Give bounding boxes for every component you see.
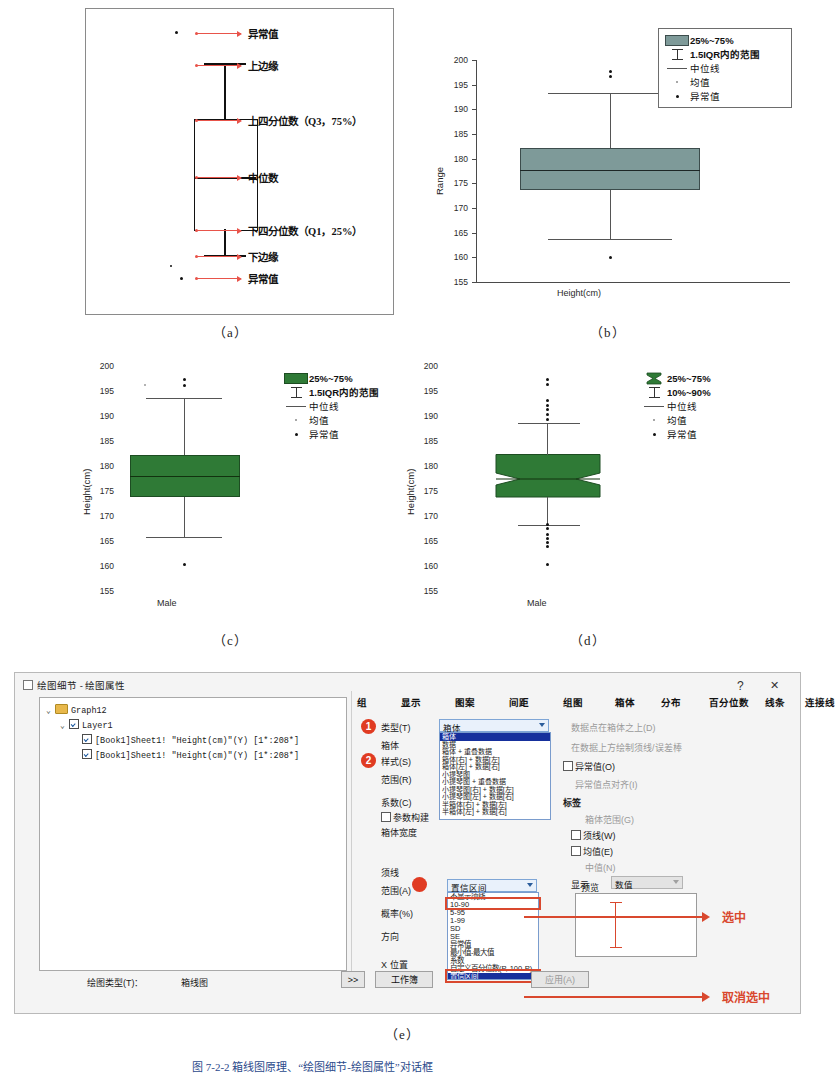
close-button[interactable]: ✕	[770, 679, 779, 692]
tab-group[interactable]: 组	[357, 695, 367, 709]
tree-node-root[interactable]: ⌄Graph12	[46, 704, 107, 716]
tab-connect-line[interactable]: 连接线	[805, 695, 835, 709]
mean-label-checkbox[interactable]	[571, 846, 581, 856]
outlier-point-d	[546, 523, 549, 526]
window-icon	[23, 680, 33, 690]
workbook-button[interactable]: 工作簿	[375, 971, 433, 988]
whisker-option[interactable]: 1-99	[448, 917, 538, 925]
annotation-label-lower-whisker: 下边缘	[248, 249, 278, 264]
outlier-point-b	[609, 256, 612, 259]
chevron-down-icon[interactable]: ⌄	[46, 706, 55, 715]
box-median-line-b	[520, 170, 700, 171]
whisker-range-combobox[interactable]: 置信区间	[447, 879, 537, 892]
legend-item: 10%~90%	[641, 385, 771, 399]
type-option[interactable]: 小提琴图	[440, 771, 550, 779]
step-badge-2: 2	[361, 753, 376, 768]
tab-distribution[interactable]: 分布	[661, 695, 681, 709]
dialog-title-text: 绘图细节 - 绘图属性	[37, 680, 125, 691]
type-combobox[interactable]: 箱体	[439, 719, 549, 732]
type-option[interactable]: 数据	[440, 741, 550, 749]
whisker-option[interactable]: SD	[448, 925, 538, 933]
whisker-label-checkbox[interactable]	[571, 830, 581, 840]
type-option[interactable]: 小提琴图[左] + 数据[右]	[440, 793, 550, 801]
type-option[interactable]: 箱体	[440, 733, 550, 741]
tree-node-layer[interactable]: ⌄Layer1	[60, 719, 113, 731]
legend-label: 10%~90%	[667, 387, 711, 398]
type-option[interactable]: 小提琴图[右] + 数据[左]	[440, 786, 550, 794]
option-label-outlier: 异常值(O)	[575, 760, 615, 773]
plot-tree[interactable]: ⌄Graph12 ⌄Layer1 [Book1]Sheet1! "Height(…	[39, 697, 347, 971]
tab-line[interactable]: 线条	[765, 695, 785, 709]
legend-mean-dot-icon	[283, 413, 309, 427]
dataset-checkbox[interactable]	[82, 749, 92, 759]
annotation-label-upper-whisker: 上边缘	[248, 58, 278, 73]
outlier-point-c	[183, 378, 186, 381]
callout-arrow-select	[702, 912, 710, 922]
help-button[interactable]: ?	[737, 679, 744, 693]
chevron-down-icon[interactable]	[539, 723, 545, 727]
y-tick-label: 195	[86, 386, 114, 396]
step-badge-3	[412, 877, 427, 892]
chevron-down-icon[interactable]	[673, 880, 679, 884]
apply-button[interactable]: 应用(A)	[531, 971, 589, 988]
panel-label-a: （a）	[213, 322, 248, 341]
tree-node-dataset[interactable]: [Book1]Sheet1! "Height(cm)"(Y) [1*:208*]	[82, 734, 299, 746]
param-checkbox[interactable]	[381, 812, 391, 822]
type-option[interactable]: 小提琴图 + 重叠数据	[440, 778, 550, 786]
panel-label-b: （b）	[590, 322, 626, 341]
type-option[interactable]: 箱体 + 重叠数据	[440, 748, 550, 756]
legend-label: 中位线	[667, 399, 697, 413]
outlier-point-d	[546, 378, 549, 381]
callout-line-select	[524, 916, 704, 918]
panel-a-diagram: 异常值 上边缘 上四分位数（Q3，75%） 中位数 下四分位数（Q1，25%） …	[85, 8, 394, 315]
type-option[interactable]: 箱体[左] + 数据[右]	[440, 763, 550, 771]
x-axis-title: Height(cm)	[557, 288, 601, 298]
type-dropdown-list[interactable]: 箱体 数据 箱体 + 重叠数据 箱体[右] + 数据[左] 箱体[左] + 数据…	[439, 732, 551, 820]
type-option[interactable]: 箱体[右] + 数据[左]	[440, 756, 550, 764]
y-tick-label: 180	[440, 154, 468, 164]
schematic-outlier-point	[180, 277, 183, 280]
type-option[interactable]: 半箱体[右] + 数据[左]	[440, 801, 550, 809]
dialog-title: 绘图细节 - 绘图属性	[23, 678, 125, 692]
field-label-box-width: 箱体宽度	[381, 826, 417, 839]
outlier-point-c	[183, 563, 186, 566]
tree-dataset-label: [Book1]Sheet1! "Height(cm)"(Y) [1*:208*]	[95, 736, 299, 746]
whisker-upper-cap-b	[548, 93, 672, 94]
outlier-checkbox[interactable]	[563, 761, 573, 771]
y-tick	[472, 233, 476, 234]
type-option[interactable]: 半箱体[左] + 数据[右]	[440, 808, 550, 816]
panel-d-chart: 200 195 190 185 180 175 170 165 160 155 …	[410, 355, 760, 620]
outlier-point-d	[546, 541, 549, 544]
tab-box[interactable]: 箱体	[615, 695, 635, 709]
plot-details-dialog: 绘图细节 - 绘图属性 ? ✕ ⌄Graph12 ⌄Layer1 [Book1]…	[14, 672, 801, 1014]
dataset-checkbox[interactable]	[82, 734, 92, 744]
annotation-label-outlier-bottom: 异常值	[248, 271, 278, 286]
tree-node-dataset[interactable]: [Book1]Sheet1! "Height(cm)"(Y) [1*:208*]	[82, 749, 299, 761]
legend-label: 均值	[667, 413, 687, 427]
tab-display[interactable]: 显示	[401, 695, 421, 709]
tab-pattern[interactable]: 图案	[455, 695, 475, 709]
layer-checkbox[interactable]	[69, 719, 79, 729]
schematic-lower-whisker-line	[224, 229, 226, 256]
whisker-lower-b	[610, 190, 611, 239]
expand-button[interactable]: >>	[341, 971, 365, 988]
y-axis-title: Height(cm)	[81, 469, 92, 515]
group-label-labels: 标签	[563, 796, 581, 809]
callout-label-select: 选中	[722, 908, 746, 925]
y-axis-line	[476, 60, 477, 282]
tab-percentile[interactable]: 百分位数	[709, 695, 749, 709]
chevron-down-icon[interactable]	[527, 883, 533, 887]
tab-spacing[interactable]: 间距	[509, 695, 529, 709]
legend-item: 异常值	[641, 427, 771, 441]
preview-box	[575, 893, 697, 957]
display-combobox[interactable]: 数值	[611, 876, 683, 889]
whisker-upper-cap-c	[146, 398, 222, 399]
tree-layer-label: Layer1	[82, 721, 113, 731]
field-label-x-position: X 位置	[381, 958, 408, 971]
chevron-down-icon[interactable]: ⌄	[60, 721, 69, 730]
footer-plot-type-label: 绘图类型(T)：	[87, 976, 144, 989]
annotation-arrow	[196, 278, 241, 279]
annotation-label-q1: 下四分位数（Q1，25%）	[248, 223, 362, 238]
option-label-median: 中值(N)	[585, 861, 616, 874]
tab-group-plot[interactable]: 组图	[563, 695, 583, 709]
